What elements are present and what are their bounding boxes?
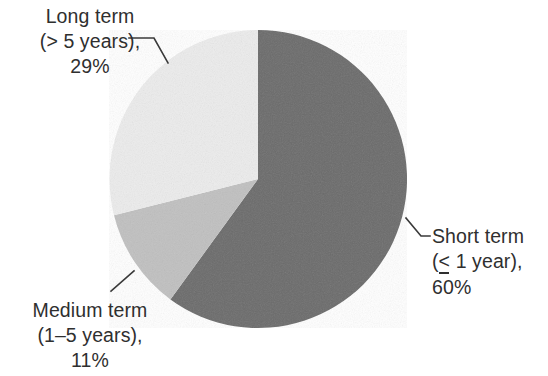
- slice-label-medium-term-value: 11%: [2, 348, 178, 373]
- less-than-or-equal-icon: <: [439, 249, 451, 275]
- slice-label-long-term: Long term (> 5 years), 29%: [6, 4, 174, 79]
- paren-open: (: [432, 250, 439, 272]
- slice-label-long-term-range: (> 5 years),: [6, 29, 174, 54]
- pie-chart-figure: Long term (> 5 years), 29% Medium term (…: [0, 0, 548, 376]
- slice-label-medium-term-range: (1–5 years),: [2, 323, 178, 348]
- slice-label-short-term-line1: Short term: [432, 224, 548, 249]
- short-term-years-text: 1 year),: [456, 250, 523, 272]
- slice-label-medium-term-line1: Medium term: [2, 298, 178, 323]
- slice-label-medium-term: Medium term (1–5 years), 11%: [2, 298, 178, 373]
- slice-label-long-term-line1: Long term: [6, 4, 174, 29]
- slice-label-short-term: Short term (< 1 year), 60%: [432, 224, 548, 300]
- slice-label-long-term-value: 29%: [6, 54, 174, 79]
- slice-label-short-term-range: (< 1 year),: [432, 249, 548, 275]
- slice-label-short-term-value: 60%: [432, 275, 548, 300]
- leader-line-short-term: [406, 218, 430, 236]
